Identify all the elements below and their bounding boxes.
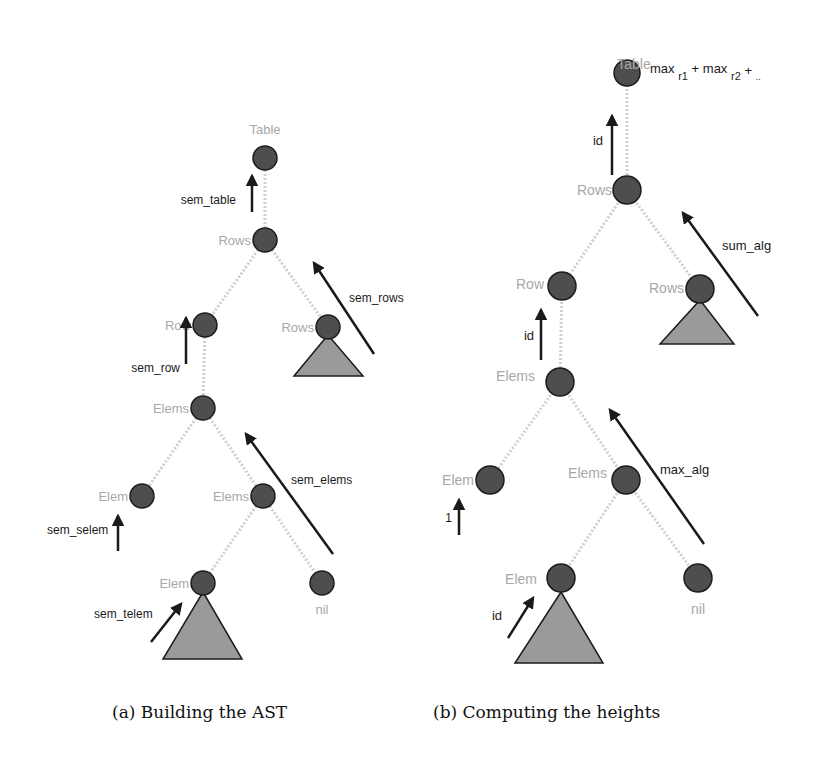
label-table: Table [249, 122, 280, 137]
label-elems: Elems [153, 401, 190, 416]
node-elem-bottom [547, 564, 575, 592]
node-elem-left [476, 466, 504, 494]
arrow-id-elem [508, 598, 533, 638]
arrow-label-sem-row: sem_row [131, 361, 180, 375]
node-elems [546, 368, 574, 396]
node-rows [613, 176, 641, 204]
arrow-label-one: 1 [445, 511, 452, 525]
arrow-label-sum-alg: sum_alg [722, 238, 771, 253]
label-elem-bottom: Elem [159, 576, 189, 591]
label-elems-right: Elems [213, 489, 250, 504]
caption-a: (a) Building the AST [112, 702, 288, 722]
label-row: Row [165, 318, 192, 333]
arrow-label-sem-telem: sem_telem [94, 607, 153, 621]
node-elem-bottom [191, 571, 215, 595]
label-elem-left: Elem [442, 472, 474, 488]
label-nil: nil [691, 601, 705, 617]
arrow-label-id-row: id [524, 328, 534, 343]
edge-rows-rows [265, 240, 328, 327]
edge-rows-rows [627, 190, 700, 289]
label-elem-left: Elem [98, 489, 128, 504]
edge-elems-elem [142, 408, 203, 496]
label-row: Row [516, 276, 545, 292]
node-elem-left [130, 484, 154, 508]
arrow-label-sem-elems: sem_elems [291, 473, 352, 487]
node-nil [310, 571, 334, 595]
edge-elems-nil [626, 480, 698, 578]
label-table: Table [617, 56, 651, 72]
arrow-label-id-table: id [593, 133, 603, 148]
arrow-label-max-alg: max_alg [660, 462, 709, 477]
edge-elems-elem [490, 382, 560, 480]
node-elems-right [251, 484, 275, 508]
node-rows [253, 228, 277, 252]
figure-canvas: Table Rows Row Rows Elems Elem Elems Ele… [0, 0, 822, 771]
label-rows: Rows [577, 182, 612, 198]
label-nil: nil [315, 602, 328, 617]
node-row [193, 313, 217, 337]
label-elems: Elems [496, 368, 535, 384]
root-height-formula: max r1 + max r2 + .. [650, 61, 761, 83]
node-table [253, 146, 277, 170]
edge-rows-row [205, 240, 265, 325]
node-nil [684, 564, 712, 592]
node-rows-right [316, 315, 340, 339]
edge-elems-elems [203, 408, 263, 496]
node-row [548, 272, 576, 300]
caption-b: (b) Computing the heights [433, 702, 660, 722]
label-rows-right: Rows [281, 320, 314, 335]
node-elems-right [612, 466, 640, 494]
panel-b-tree: Table Rows Row Rows Elems Elem Elems Ele… [442, 56, 771, 663]
arrow-label-sem-table: sem_table [181, 193, 237, 207]
arrow-label-id-elem: id [492, 608, 502, 623]
arrow-label-sem-rows: sem_rows [349, 291, 404, 305]
subtree-triangle [660, 300, 734, 344]
subtree-triangle [163, 592, 242, 659]
edge-elems-nil [263, 496, 322, 583]
subtree-triangle [294, 335, 363, 376]
arrow-label-sem-selem: sem_selem [47, 523, 108, 537]
label-elem-bottom: Elem [505, 571, 537, 587]
label-rows: Rows [218, 233, 251, 248]
node-rows-right [686, 275, 714, 303]
subtree-triangle [515, 592, 603, 663]
edge-rows-row [562, 190, 627, 286]
panel-a-tree: Table Rows Row Rows Elems Elem Elems Ele… [47, 122, 404, 659]
edge-elems-elem-bottom [203, 496, 263, 583]
label-elems-right: Elems [568, 465, 607, 481]
node-elems [191, 396, 215, 420]
label-rows-right: Rows [649, 280, 684, 296]
edge-elems-elem-bottom [561, 480, 626, 578]
